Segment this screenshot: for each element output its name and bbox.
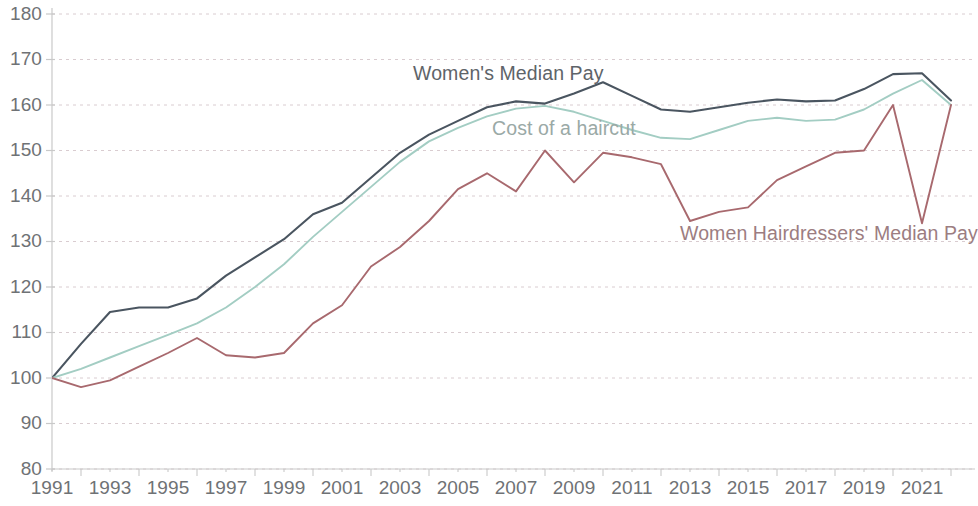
y-axis-tick-130: 130	[0, 230, 42, 252]
y-axis-tick-180: 180	[0, 3, 42, 25]
y-axis-tick-90: 90	[0, 412, 42, 434]
y-axis-tick-110: 110	[0, 321, 42, 343]
x-axis-tick-2015: 2015	[718, 477, 778, 499]
series-line-2	[52, 105, 951, 387]
x-axis-tick-2013: 2013	[660, 477, 720, 499]
x-axis-tick-1997: 1997	[196, 477, 256, 499]
y-axis-tick-170: 170	[0, 48, 42, 70]
y-axis-tick-160: 160	[0, 94, 42, 116]
x-axis-tick-2005: 2005	[428, 477, 488, 499]
x-axis-tick-2019: 2019	[834, 477, 894, 499]
x-axis-tick-2009: 2009	[544, 477, 604, 499]
series-label-women-hairdressers-median-pay: Women Hairdressers' Median Pay	[680, 222, 978, 245]
x-axis-tick-2011: 2011	[602, 477, 662, 499]
series-label-cost-of-haircut: Cost of a haircut	[492, 117, 636, 140]
x-axis-tick-1995: 1995	[138, 477, 198, 499]
x-axis-tick-1999: 1999	[254, 477, 314, 499]
y-axis-tick-150: 150	[0, 139, 42, 161]
x-axis-tick-2007: 2007	[486, 477, 546, 499]
x-axis-tick-1993: 1993	[80, 477, 140, 499]
x-axis-tick-2001: 2001	[312, 477, 372, 499]
series-label-womens-median-pay: Women's Median Pay	[413, 62, 604, 85]
y-axis-tick-140: 140	[0, 185, 42, 207]
x-axis-tick-2003: 2003	[370, 477, 430, 499]
y-axis-tick-120: 120	[0, 276, 42, 298]
x-axis-tick-1991: 1991	[22, 477, 82, 499]
x-axis-tick-2017: 2017	[776, 477, 836, 499]
x-tick-marks	[52, 469, 951, 476]
x-axis-tick-2021: 2021	[892, 477, 952, 499]
y-axis-tick-100: 100	[0, 367, 42, 389]
